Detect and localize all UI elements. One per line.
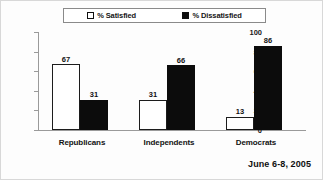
filled-square-icon [182,12,189,19]
category-label-independents: Independents [124,138,214,147]
category-label-republicans: Republicans [37,138,127,147]
legend-entry-satisfied: % Satisfied [87,11,136,20]
bar-democrats-satisfied [226,117,254,130]
bar-value-republicans-satisfied: 67 [49,55,83,64]
plot-area: 100 80 60 40 20 0 67 31 31 66 13 86 [38,32,306,131]
bar-independents-satisfied [139,100,167,130]
legend-entry-dissatisfied: % Dissatisfied [182,11,241,20]
legend-label-dissatisfied: % Dissatisfied [192,11,241,20]
bar-value-independents-satisfied: 31 [136,90,170,99]
x-axis-line [38,130,306,131]
y-tick-20 [34,110,38,111]
category-label-democrats: Democrats [211,138,301,147]
footer-date: June 6-8, 2005 [248,159,311,169]
bar-value-independents-dissatisfied: 66 [164,56,198,65]
legend-label-satisfied: % Satisfied [97,11,136,20]
bar-democrats-dissatisfied [254,46,282,130]
hollow-square-icon [87,12,94,19]
y-tick-100 [34,32,38,33]
bar-value-democrats-dissatisfied: 86 [251,36,285,45]
chart-legend: % Satisfied % Dissatisfied [63,8,266,23]
y-tick-0 [34,130,38,131]
bar-republicans-dissatisfied [80,100,108,130]
y-tick-40 [34,91,38,92]
y-axis-line [38,32,39,131]
y-tick-60 [34,71,38,72]
bar-value-democrats-satisfied: 13 [223,107,257,116]
bar-independents-dissatisfied [167,65,195,130]
chart-page: % Satisfied % Dissatisfied 100 80 60 40 … [0,0,323,180]
y-tick-80 [34,52,38,53]
bar-republicans-satisfied [52,64,80,130]
bar-value-republicans-dissatisfied: 31 [77,90,111,99]
